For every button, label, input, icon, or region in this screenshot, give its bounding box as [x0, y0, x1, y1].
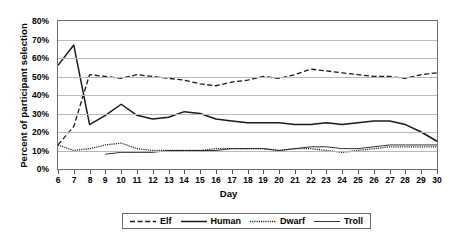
x-axis-tick: [342, 170, 343, 174]
gridline: [58, 58, 437, 59]
gridline: [58, 114, 437, 115]
x-axis-tick: [153, 170, 154, 174]
legend-swatch-troll: [314, 218, 340, 225]
x-axis-tick: [184, 170, 185, 174]
x-axis-tick: [326, 170, 327, 174]
gridline: [58, 132, 437, 133]
gridline: [58, 95, 437, 96]
gridline: [58, 151, 437, 152]
x-axis-tick: [90, 170, 91, 174]
x-axis-tick: [311, 170, 312, 174]
y-axis-tick-label: 40%: [17, 90, 49, 100]
y-axis-tick-label: 20%: [17, 127, 49, 137]
legend-item-dwarf: Dwarf: [250, 216, 305, 226]
series-line-elf: [58, 69, 437, 145]
y-axis-tick-label: 30%: [17, 109, 49, 119]
legend-item-elf: Elf: [130, 216, 172, 226]
x-axis-tick: [374, 170, 375, 174]
x-axis-tick: [248, 170, 249, 174]
x-axis-tick: [232, 170, 233, 174]
x-axis-title: Day: [0, 188, 457, 199]
x-axis-tick: [421, 170, 422, 174]
y-axis-tick-label: 10%: [17, 146, 49, 156]
x-axis-tick: [358, 170, 359, 174]
x-axis-tick: [405, 170, 406, 174]
y-axis-tick-label: 70%: [17, 35, 49, 45]
legend-swatch-elf: [130, 218, 156, 225]
x-axis-tick: [437, 170, 438, 174]
chart-legend: ElfHumanDwarfTroll: [122, 213, 371, 229]
legend-item-human: Human: [181, 216, 242, 226]
x-axis-tick: [295, 170, 296, 174]
x-axis-tick: [58, 170, 59, 174]
x-axis-tick: [137, 170, 138, 174]
legend-label: Dwarf: [280, 216, 305, 226]
x-axis-tick: [216, 170, 217, 174]
chart-figure: Percent of participant selection 80%70%6…: [0, 0, 457, 242]
x-axis-tick: [200, 170, 201, 174]
series-line-human: [58, 45, 437, 141]
x-axis-tick: [74, 170, 75, 174]
y-axis-tick-label: 50%: [17, 72, 49, 82]
legend-label: Elf: [160, 216, 172, 226]
y-axis-tick-label: 0%: [17, 164, 49, 174]
legend-label: Human: [211, 216, 242, 226]
x-axis-tick: [390, 170, 391, 174]
y-axis-tick-label: 80%: [17, 16, 49, 26]
x-axis-tick: [105, 170, 106, 174]
x-axis-tick: [279, 170, 280, 174]
gridline: [58, 40, 437, 41]
y-axis-tick-label: 60%: [17, 53, 49, 63]
x-axis-tick: [169, 170, 170, 174]
legend-swatch-dwarf: [250, 218, 276, 225]
legend-item-troll: Troll: [314, 216, 363, 226]
gridline: [58, 77, 437, 78]
series-line-troll: [105, 145, 437, 154]
legend-label: Troll: [344, 216, 363, 226]
legend-swatch-human: [181, 218, 207, 225]
x-axis-tick: [263, 170, 264, 174]
x-axis-tick: [121, 170, 122, 174]
x-axis-tick-label: 30: [426, 175, 448, 185]
plot-area: [57, 20, 438, 170]
